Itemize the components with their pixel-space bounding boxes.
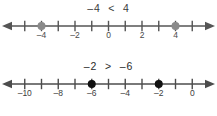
number-line-labels-1: –4–2024 (0, 30, 217, 46)
tick-label: –4 (121, 88, 130, 98)
tick-label: –2 (154, 88, 163, 98)
tick-label: –4 (37, 30, 46, 40)
tick-label: 0 (106, 30, 111, 40)
axis-arrow-right (205, 22, 215, 30)
tick-label: –2 (70, 30, 79, 40)
inequality-caption-1: –4 < 4 (0, 2, 217, 14)
axis-arrow-right (205, 80, 215, 88)
tick-label: 0 (190, 88, 195, 98)
number-line-point (172, 23, 179, 30)
number-line-figure-1: –4 < 4 –4–2024 (0, 0, 217, 58)
tick-label: –10 (18, 88, 32, 98)
tick-label: 4 (173, 30, 178, 40)
number-line-point (155, 81, 162, 88)
axis-arrow-left (2, 22, 12, 30)
tick-label: 2 (140, 30, 145, 40)
tick-label: –8 (54, 88, 63, 98)
number-line-figure-2: –2 > –6 –10–8–6–4–20 (0, 58, 217, 116)
tick-label: –6 (87, 88, 96, 98)
number-line-point (88, 81, 95, 88)
axis-arrow-left (2, 80, 12, 88)
inequality-caption-2: –2 > –6 (0, 60, 217, 72)
number-line-labels-2: –10–8–6–4–20 (0, 88, 217, 104)
number-line-point (38, 23, 45, 30)
